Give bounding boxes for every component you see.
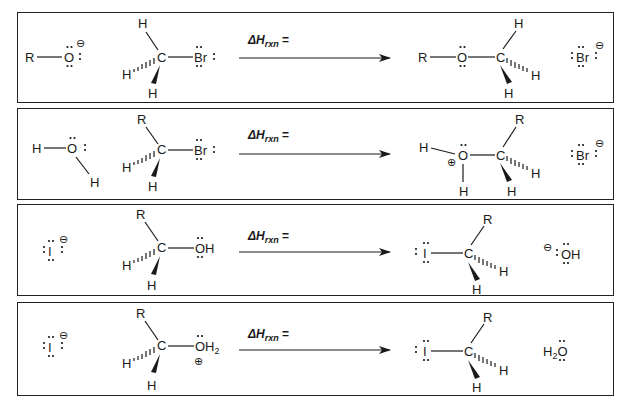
atom-O: O xyxy=(64,50,74,65)
atom-H-bottom: H xyxy=(148,86,157,101)
molecule-H2O: H2O xyxy=(543,344,568,361)
substrate-alcohol: R C H H OH xyxy=(122,207,215,293)
solid-wedge-bond xyxy=(151,354,160,373)
atom-R: R xyxy=(418,50,427,65)
atom-H: H xyxy=(32,141,41,156)
negative-charge-icon: ⊖ xyxy=(76,37,85,50)
atom-R: R xyxy=(25,50,34,65)
reaction-arrow: ΔHrxn= xyxy=(239,33,390,58)
substrate-alkyl-bromide: R C H H Br xyxy=(122,112,215,194)
atom-H-bottom: H xyxy=(507,184,516,199)
atom-H: H xyxy=(90,175,99,190)
product-alkyl-iodide: I C R H H xyxy=(415,212,508,297)
atom-H: H xyxy=(419,140,428,155)
atom-C: C xyxy=(464,344,473,359)
atom-C: C xyxy=(157,240,166,255)
atom-H-bottom: H xyxy=(147,278,156,293)
atom-C: C xyxy=(496,50,505,65)
atom-R: R xyxy=(137,112,146,127)
nucleophile-water: H O H xyxy=(32,137,99,190)
atom-I: I xyxy=(423,246,427,261)
hashed-wedge-bond xyxy=(475,353,495,367)
reaction-arrow: ΔHrxn= xyxy=(239,128,390,154)
group-OH: OH xyxy=(195,241,215,256)
atom-H-left: H xyxy=(122,356,131,371)
atom-H-left: H xyxy=(122,258,131,273)
hashed-wedge-bond xyxy=(134,58,154,72)
atom-C: C xyxy=(157,50,166,65)
atom-H-bottom: H xyxy=(472,380,481,395)
atom-O: O xyxy=(67,141,77,156)
atom-I: I xyxy=(48,244,52,259)
reaction-4: I ⊖ R C H H OH2 ⊕ ΔHrxn= xyxy=(43,306,568,395)
atom-H-bottom: H xyxy=(504,86,513,101)
nucleophile-iodide: I ⊖ xyxy=(43,233,68,261)
solid-wedge-bond xyxy=(500,65,512,84)
hashed-wedge-bond xyxy=(475,255,495,269)
negative-charge-icon: ⊖ xyxy=(595,39,604,52)
byproduct-bromide: Br ⊖ xyxy=(571,39,604,67)
delta-h-label: ΔHrxn= xyxy=(247,128,289,144)
atom-H-bottom: H xyxy=(147,378,156,393)
reaction-3: I ⊖ R C H H OH ΔHrxn= xyxy=(43,207,581,297)
nucleophile-alkoxide: R O ⊖ xyxy=(25,37,85,67)
hashed-wedge-bond xyxy=(134,249,154,263)
atom-I: I xyxy=(48,340,52,355)
atom-H-top: H xyxy=(514,16,523,31)
atom-O: O xyxy=(457,50,467,65)
negative-charge-icon: ⊖ xyxy=(543,241,552,254)
product-ether: R O C H H H xyxy=(418,16,540,101)
delta-h-label: ΔHrxn= xyxy=(247,229,289,245)
atom-H-right: H xyxy=(499,264,508,279)
substrate-methyl-bromide: H C H H Br xyxy=(122,16,215,101)
atom-H: H xyxy=(459,184,468,199)
atom-R: R xyxy=(483,212,492,227)
atom-Br: Br xyxy=(194,143,208,158)
atom-R: R xyxy=(483,310,492,325)
solid-wedge-bond xyxy=(468,262,480,281)
hashed-wedge-bond xyxy=(134,151,154,165)
atom-H-bottom: H xyxy=(472,282,481,297)
negative-charge-icon: ⊖ xyxy=(595,137,604,150)
atom-C: C xyxy=(157,338,166,353)
atom-H-left: H xyxy=(122,67,131,82)
positive-charge-icon: ⊕ xyxy=(447,156,456,169)
solid-wedge-bond xyxy=(151,256,160,275)
atom-R: R xyxy=(136,306,145,321)
atom-C: C xyxy=(464,246,473,261)
reaction-arrow: ΔHrxn= xyxy=(239,229,390,252)
solid-wedge-bond xyxy=(151,158,160,177)
product-oxonium: H O ⊕ H C R H H xyxy=(419,112,540,199)
hashed-wedge-bond xyxy=(134,347,154,361)
hashed-wedge-bond xyxy=(507,58,527,72)
reaction-arrow: ΔHrxn= xyxy=(239,327,390,350)
atom-Br: Br xyxy=(576,50,590,65)
atom-O: O xyxy=(458,148,468,163)
solid-wedge-bond xyxy=(500,163,512,182)
negative-charge-icon: ⊖ xyxy=(59,233,68,246)
atom-H-right: H xyxy=(531,166,540,181)
positive-charge-icon: ⊕ xyxy=(194,355,203,368)
atom-R: R xyxy=(136,207,145,222)
atom-R: R xyxy=(515,112,524,127)
solid-wedge-bond xyxy=(151,65,160,84)
atom-Br: Br xyxy=(576,148,590,163)
reaction-2: H O H R C H H Br ΔHrx xyxy=(32,112,604,199)
solid-wedge-bond xyxy=(468,360,480,379)
reaction-diagram: R O ⊖ H C H H Br xyxy=(0,0,630,413)
atom-H-right: H xyxy=(499,363,508,378)
atom-H-left: H xyxy=(122,160,131,175)
atom-H-bottom: H xyxy=(148,179,157,194)
group-OH: OH xyxy=(561,247,581,262)
atom-C: C xyxy=(157,142,166,157)
group-OH2: OH2 xyxy=(195,339,220,356)
nucleophile-iodide: I ⊖ xyxy=(43,329,68,357)
byproduct-water: H2O xyxy=(543,340,568,361)
atom-H-top: H xyxy=(138,16,147,31)
byproduct-bromide: Br ⊖ xyxy=(571,137,604,165)
atom-H-right: H xyxy=(531,68,540,83)
delta-h-label: ΔHrxn= xyxy=(247,327,289,343)
product-alkyl-iodide: I C R H H xyxy=(415,310,508,395)
atom-C: C xyxy=(496,148,505,163)
hashed-wedge-bond xyxy=(507,156,527,170)
